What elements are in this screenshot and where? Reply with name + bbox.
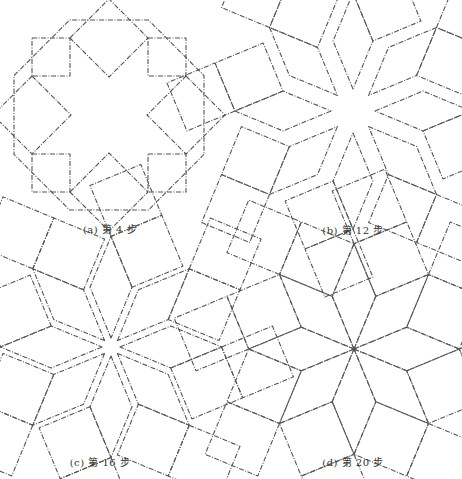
inner-rhombus-tile [280,349,355,424]
inner-rhombus-tile [280,275,355,350]
square-tile [354,222,429,296]
square-tile [407,349,462,424]
outer-rhombus-tile [407,424,462,479]
outer-rhombus-tile [429,222,462,296]
inner-rhombus-tile [354,327,459,371]
square-tile [227,349,301,424]
outer-rhombus-tile [205,402,279,476]
inner-rhombus-tile [249,327,354,371]
outer-rhombus-tile [227,200,301,274]
inner-rhombus-tile [332,244,376,349]
square-tile [407,275,462,350]
inner-rhombus-tile [332,349,376,454]
tiling-diagram-d [0,0,462,479]
outer-rhombus-tile [332,169,407,244]
square-tile [280,222,355,296]
caption-d: (d) 第 20 步 [322,454,383,469]
inner-rhombus-tile [354,349,429,424]
inner-rhombus-tile [354,275,429,350]
square-tile [227,275,301,350]
outer-rhombus-tile [174,296,249,371]
